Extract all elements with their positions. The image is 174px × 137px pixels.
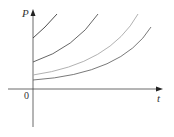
chart-canvas [0,0,174,137]
curve-1 [33,14,57,38]
y-axis-label: P [22,8,29,19]
curve-2 [33,14,98,62]
x-axis-label: t [157,93,160,104]
x-axis-arrow-icon [156,87,163,92]
y-axis-arrow-icon [31,9,36,16]
origin-label: 0 [24,91,29,101]
